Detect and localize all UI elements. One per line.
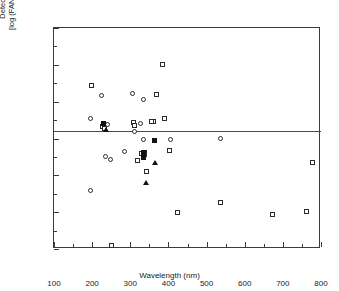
plot-area: 3210-1-2-3 100200300400500600700800 (53, 27, 320, 248)
y-tick-minor (54, 157, 57, 158)
x-tick-minor (188, 244, 189, 247)
x-tick-minor (264, 244, 265, 247)
y-tick-minor (54, 46, 57, 47)
x-tick-minor (73, 244, 74, 247)
data-point-filled-square (152, 138, 157, 143)
x-tick-label: 700 (268, 280, 298, 288)
x-tick-major (168, 242, 169, 247)
data-point-open-square (175, 210, 180, 215)
x-tick-major (92, 242, 93, 247)
data-point-open-circle (132, 129, 137, 134)
y-tick-major (54, 249, 59, 250)
scatter-plot-figure: Detection Limits [log (FANES/GF-AAS)] 32… (0, 0, 339, 291)
x-tick-label: 400 (153, 280, 183, 288)
data-point-open-circle (218, 136, 223, 141)
data-point-open-circle (168, 137, 173, 142)
y-tick-major (54, 102, 59, 103)
data-point-open-circle (122, 149, 127, 154)
x-tick-major (54, 242, 55, 247)
x-tick-label: 200 (77, 280, 107, 288)
data-point-open-square (154, 92, 159, 97)
data-point-open-square (304, 209, 309, 214)
data-point-open-square (89, 83, 94, 88)
x-tick-label: 100 (39, 280, 69, 288)
y-tick-major (54, 28, 59, 29)
x-tick-major (321, 242, 322, 247)
data-point-open-square (167, 148, 172, 153)
x-tick-major (283, 242, 284, 247)
data-point-open-square (149, 119, 154, 124)
y-tick-major (54, 175, 59, 176)
x-tick-major (245, 242, 246, 247)
x-tick-minor (149, 244, 150, 247)
x-tick-label: 300 (115, 280, 145, 288)
y-tick-minor (54, 231, 57, 232)
data-point-filled-square (101, 121, 106, 126)
x-tick-label: 600 (230, 280, 260, 288)
data-point-open-square (132, 123, 137, 128)
data-point-open-square (162, 116, 167, 121)
x-tick-minor (226, 244, 227, 247)
data-point-open-circle (130, 91, 135, 96)
data-point-open-square (144, 169, 149, 174)
data-point-open-square (270, 212, 275, 217)
data-point-open-circle (88, 188, 93, 193)
x-tick-major (130, 242, 131, 247)
x-tick-label: 800 (306, 280, 336, 288)
y-tick-minor (54, 120, 57, 121)
data-point-open-circle (108, 157, 113, 162)
data-point-open-circle (88, 116, 93, 121)
data-point-open-circle (103, 154, 108, 159)
y-tick-minor (54, 83, 57, 84)
y-axis-title-line2: [log (FANES/GF-AAS)] (7, 0, 16, 62)
data-point-filled-square (141, 155, 146, 160)
data-point-open-circle (138, 121, 143, 126)
data-point-open-square (109, 243, 114, 248)
data-point-open-square (310, 160, 315, 165)
zero-reference-line (54, 131, 321, 132)
data-point-filled-triangle (143, 180, 149, 185)
x-tick-minor (302, 244, 303, 247)
x-tick-major (207, 242, 208, 247)
data-point-open-square (160, 62, 165, 67)
data-point-open-circle (141, 97, 146, 102)
data-point-filled-triangle (152, 160, 158, 165)
y-axis-title: Detection Limits [log (FANES/GF-AAS)] (0, 0, 16, 62)
y-tick-major (54, 212, 59, 213)
data-point-open-square (218, 200, 223, 205)
y-tick-major (54, 139, 59, 140)
data-point-open-circle (141, 137, 146, 142)
y-axis-title-line1: Detection Limits (0, 0, 7, 19)
x-axis-title: Wavelength (nm) (0, 271, 339, 280)
y-tick-major (54, 65, 59, 66)
data-point-open-circle (99, 93, 104, 98)
data-point-filled-triangle (103, 127, 109, 132)
x-tick-label: 500 (192, 280, 222, 288)
data-point-open-square (135, 158, 140, 163)
y-tick-minor (54, 194, 57, 195)
